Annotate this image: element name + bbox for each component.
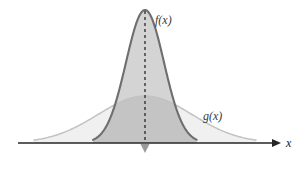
right-arrow-icon [272,139,281,147]
x-axis-label: x [285,136,292,150]
figure-canvas: f(x) g(x) x [0,0,304,169]
f-curve-label: f(x) [155,13,172,27]
normal-curves-figure: f(x) g(x) x [0,0,304,169]
mean-marker [141,144,150,153]
g-curve-label: g(x) [203,109,222,123]
